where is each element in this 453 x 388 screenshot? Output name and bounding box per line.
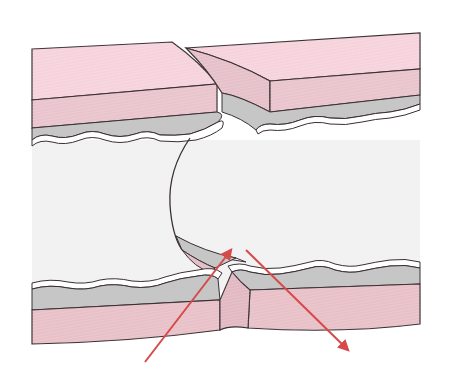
diagram-canvas bbox=[0, 0, 453, 388]
lower-right-wall-segment bbox=[220, 259, 420, 330]
bowel-junction-illustration bbox=[0, 0, 453, 388]
